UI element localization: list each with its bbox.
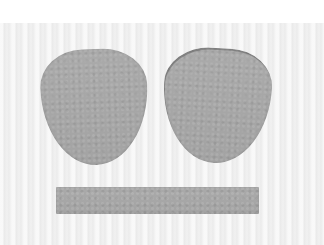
bottom-felt-strip xyxy=(56,187,259,214)
photo-scene xyxy=(0,0,324,245)
